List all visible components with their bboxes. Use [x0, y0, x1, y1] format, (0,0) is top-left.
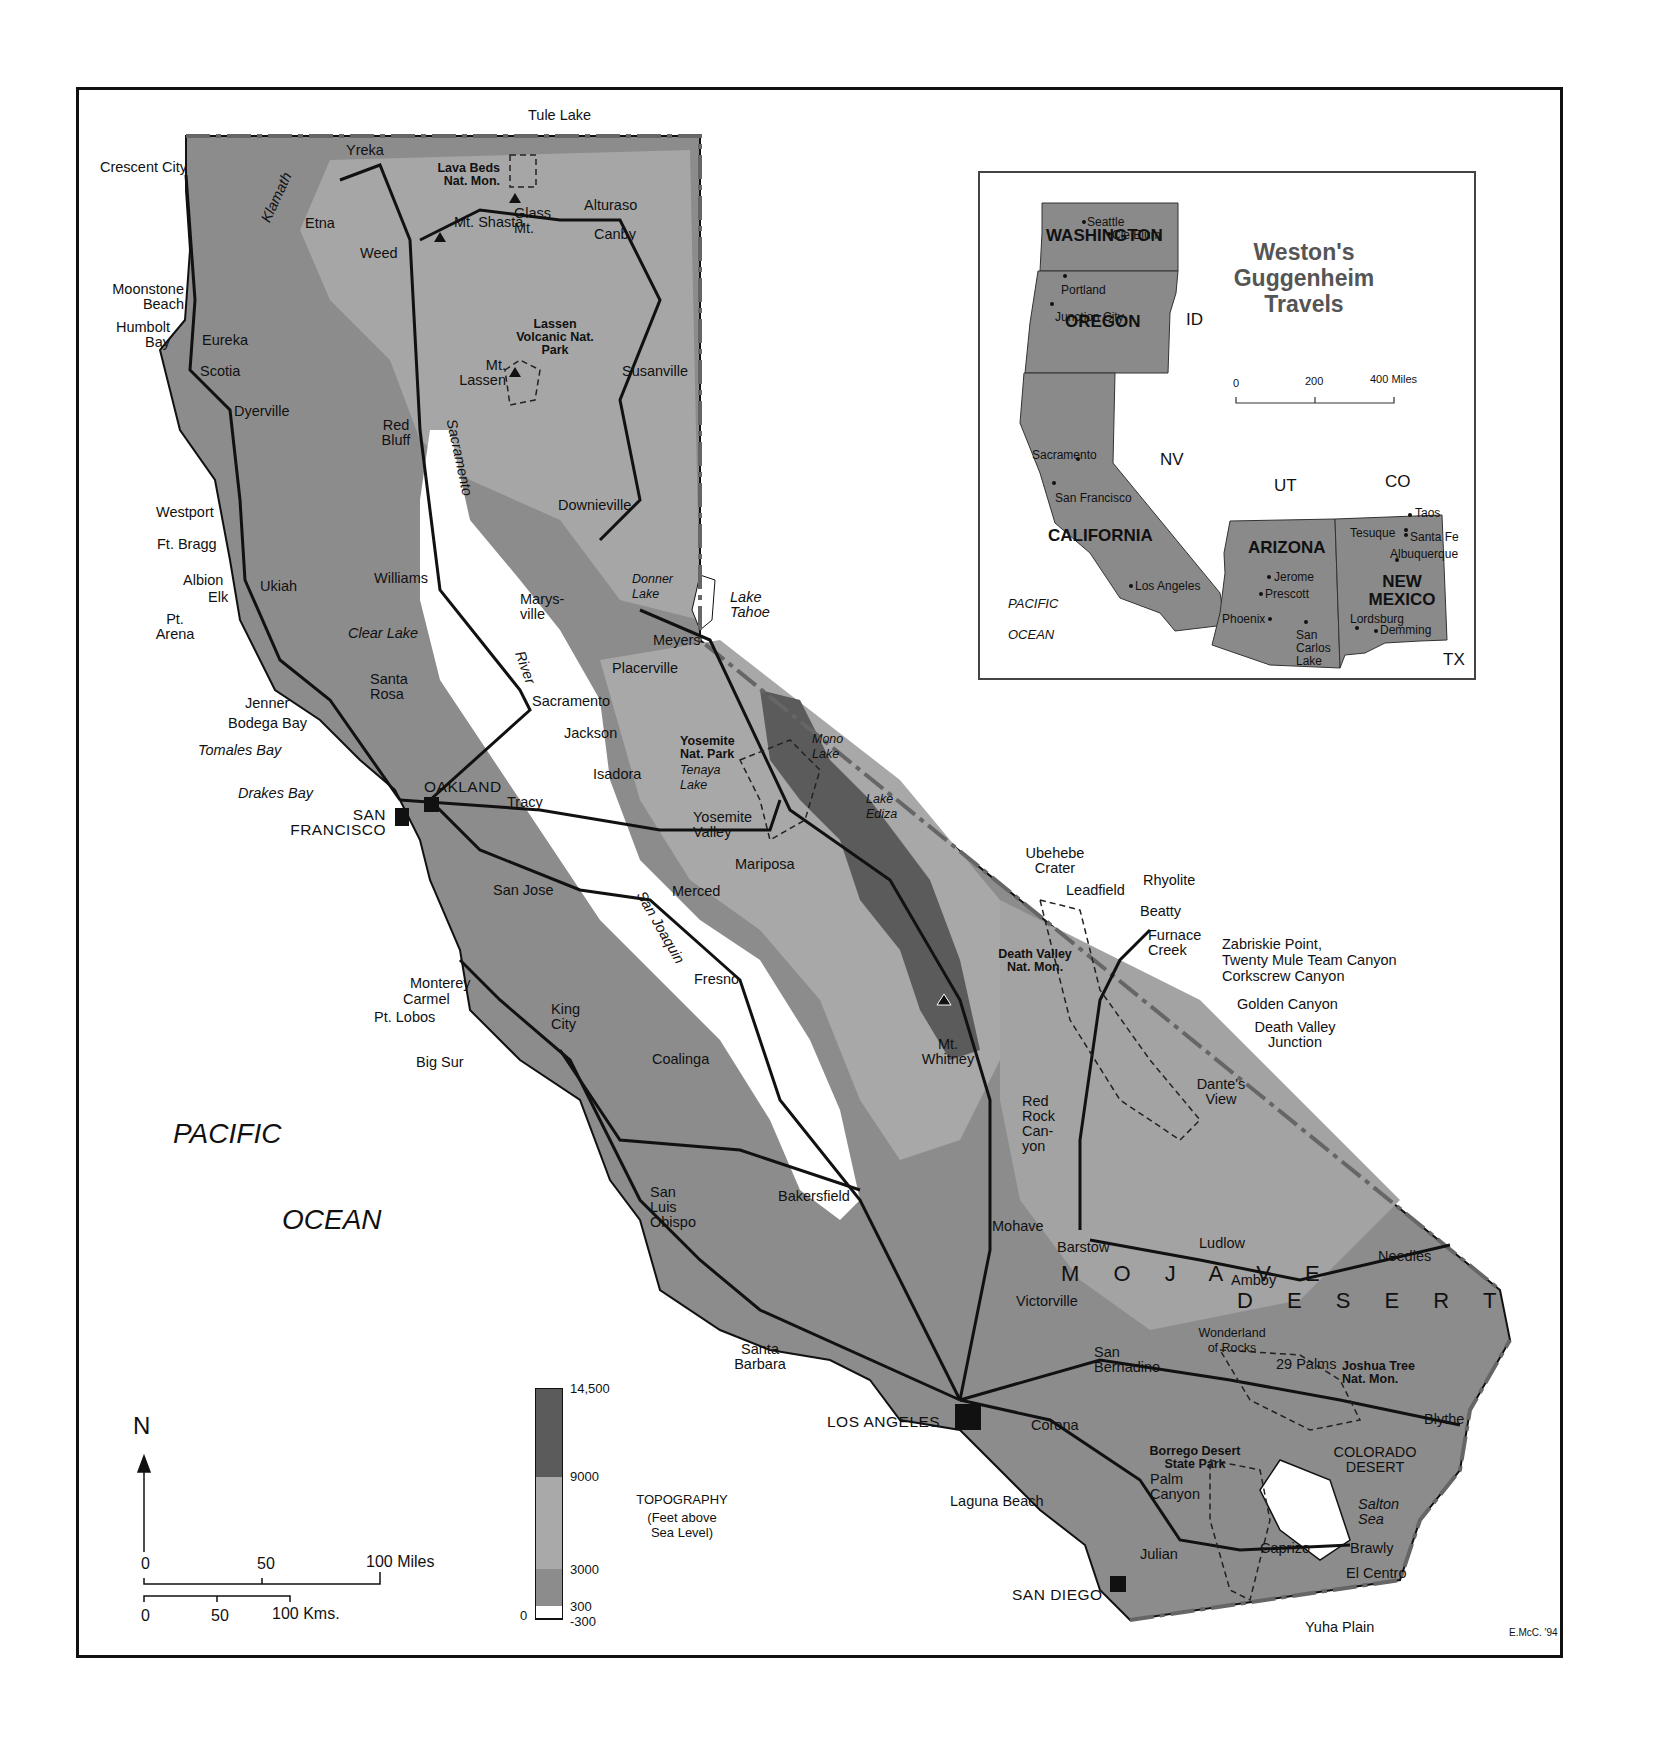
- place-alturaso: Alturaso: [584, 198, 637, 213]
- place-julian: Julian: [1140, 1547, 1178, 1562]
- place-isadora: Isadora: [593, 767, 641, 782]
- place-mohave: Mohave: [992, 1219, 1044, 1234]
- place-blythe: Blythe: [1424, 1412, 1464, 1427]
- inset-city-cle-elum: Cle Elum: [1112, 229, 1161, 242]
- north-arrow-and-scale: [130, 1442, 430, 1602]
- sd-marker: [1110, 1576, 1126, 1592]
- region-mojave: M O J A V E: [1061, 1266, 1334, 1281]
- place-mt-shasta: Mt. Shasta: [454, 215, 510, 230]
- legend-title: TOPOGRAPHY: [622, 1492, 742, 1507]
- inset-ocean-pacific: PACIFIC: [1008, 597, 1058, 610]
- place-zabriskie-point: Zabriskie Point,: [1222, 937, 1322, 952]
- place-brawly: Brawly: [1350, 1541, 1394, 1556]
- place-leadfield: Leadfield: [1066, 883, 1125, 898]
- place-mono-lake: Mono Lake: [812, 732, 852, 762]
- inset-state-ut: UT: [1274, 479, 1297, 492]
- place-palm-canyon: Palm Canyon: [1150, 1472, 1210, 1502]
- place-yuha-plain: Yuha Plain: [1305, 1620, 1374, 1635]
- inset-city-taos: Taos: [1415, 507, 1440, 520]
- place-carmel: Carmel: [403, 992, 450, 1007]
- place-salton-sea: Salton Sea: [1358, 1497, 1408, 1527]
- place-san-francisco: SAN FRANCISCO: [260, 807, 386, 837]
- place-victorville: Victorville: [1016, 1294, 1078, 1309]
- scale-miles-50: 50: [257, 1556, 275, 1571]
- place-lake-tahoe: Lake Tahoe: [730, 590, 780, 620]
- inset-city-tesuque: Tesuque: [1350, 527, 1395, 540]
- ocean-label-pacific: PACIFIC: [173, 1126, 281, 1141]
- place-clear-lake: Clear Lake: [348, 626, 418, 641]
- place-yreka: Yreka: [346, 143, 384, 158]
- place-jenner: Jenner: [245, 696, 289, 711]
- topography-legend-bar: [535, 1388, 563, 1620]
- inset-city-prescott: Prescott: [1265, 588, 1309, 601]
- sf-marker: [395, 808, 409, 826]
- place-ft-bragg: Ft. Bragg: [157, 537, 217, 552]
- place-lake-ediza: Lake Ediza: [866, 792, 906, 822]
- oakland-marker: [424, 797, 439, 812]
- place-jackson: Jackson: [564, 726, 617, 741]
- place-wonderland-of-rocks: Wonderland of Rocks: [1192, 1326, 1272, 1356]
- place-golden-canyon: Golden Canyon: [1237, 997, 1338, 1012]
- place-sacramento: Sacramento: [532, 694, 610, 709]
- north-label: N: [133, 1414, 150, 1438]
- legend-tick-3000: 3000: [570, 1562, 599, 1577]
- place-san-diego: SAN DIEGO: [1012, 1587, 1103, 1602]
- inset-city-santa-fe: Santa Fe: [1410, 531, 1459, 544]
- place-albion: Albion: [183, 573, 223, 588]
- place-big-sur: Big Sur: [416, 1055, 464, 1070]
- place-eureka: Eureka: [202, 333, 248, 348]
- inset-state-new-mexico: NEW MEXICO: [1362, 573, 1442, 609]
- place-beatty: Beatty: [1140, 904, 1181, 919]
- place-elk: Elk: [208, 590, 228, 605]
- place-glass-mt: Glass Mt.: [514, 206, 554, 236]
- inset-title: Weston's Guggenheim Travels: [1214, 239, 1394, 317]
- park-joshua-tree: Joshua Tree Nat. Mon.: [1342, 1360, 1422, 1386]
- place-fresno: Fresno: [694, 972, 739, 987]
- scale-kms-0: 0: [141, 1608, 150, 1623]
- inset-scale-400: 400 Miles: [1370, 373, 1417, 386]
- inset-state-arizona: ARIZONA: [1248, 539, 1325, 557]
- inset-scale-bar: [1236, 397, 1394, 403]
- region-desert: D E S E R T: [1237, 1293, 1510, 1308]
- place-tomales-bay: Tomales Bay: [198, 743, 281, 758]
- inset-city-jerome: Jerome: [1274, 571, 1314, 584]
- place-crescent-city: Crescent City: [100, 160, 176, 175]
- place-corona: Corona: [1031, 1418, 1079, 1433]
- place-pt-lobos: Pt. Lobos: [374, 1010, 435, 1025]
- place-dantes-view: Dante's View: [1196, 1077, 1246, 1107]
- inset-state-tx: TX: [1443, 653, 1465, 666]
- place-29-palms: 29 Palms: [1276, 1357, 1336, 1372]
- place-merced: Merced: [672, 884, 720, 899]
- place-santa-barbara: Santa Barbara: [730, 1342, 790, 1372]
- park-yosemite: Yosemite Nat. Park: [680, 735, 750, 761]
- legend-tick-300: 300: [570, 1599, 592, 1614]
- place-red-rock-canyon: Red Rock Can-yon: [1022, 1094, 1062, 1154]
- place-caprizo: Caprizo: [1260, 1541, 1310, 1556]
- scale-bar-miles: [144, 1572, 380, 1584]
- place-bakersfield: Bakersfield: [778, 1189, 850, 1204]
- place-mariposa: Mariposa: [735, 857, 795, 872]
- ocean-label-ocean: OCEAN: [282, 1212, 382, 1227]
- place-moonstone-beach: Moonstone Beach: [100, 282, 184, 312]
- place-scotia: Scotia: [200, 364, 240, 379]
- place-laguna-beach: Laguna Beach: [950, 1494, 1044, 1509]
- inset-state-id: ID: [1186, 313, 1203, 326]
- place-corkscrew-canyon: Corkscrew Canyon: [1222, 969, 1345, 984]
- place-mt-lassen: Mt. Lassen: [450, 358, 506, 388]
- place-red-bluff: Red Bluff: [378, 418, 414, 448]
- place-santa-rosa: Santa Rosa: [370, 672, 410, 702]
- place-downieville: Downieville: [558, 498, 631, 513]
- place-canby: Canby: [594, 227, 636, 242]
- place-ubehebe-crater: Ubehebe Crater: [1020, 846, 1090, 876]
- place-barstow: Barstow: [1057, 1240, 1109, 1255]
- place-san-jose: San Jose: [493, 883, 553, 898]
- place-susanville: Susanville: [622, 364, 688, 379]
- scale-kms-100: 100 Kms.: [272, 1606, 340, 1621]
- place-etna: Etna: [305, 216, 335, 231]
- place-death-valley-junction: Death Valley Junction: [1240, 1020, 1350, 1050]
- inset-ocean-ocean: OCEAN: [1008, 628, 1054, 641]
- inset-city-san-carlos-lake: San Carlos Lake: [1296, 629, 1336, 668]
- legend-tick-9000: 9000: [570, 1469, 599, 1484]
- place-amboy: Amboy: [1231, 1273, 1276, 1288]
- place-furnace-creek: Furnace Creek: [1148, 928, 1208, 958]
